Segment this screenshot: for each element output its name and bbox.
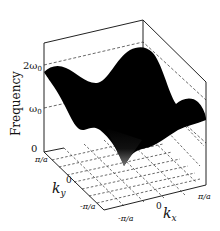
kx-tick-zero: 0	[156, 201, 162, 211]
kx-axis: -π/a 0 π/a kx	[118, 192, 211, 223]
ky-tick-zero: 0	[66, 175, 72, 185]
ky-axis-title: ky	[52, 180, 66, 198]
z-tick-0: 0	[31, 143, 37, 154]
ky-axis: π/a 0 -π/a ky	[34, 155, 96, 211]
z-tick-w0: ω0	[29, 103, 42, 116]
kx-tick-neg: -π/a	[118, 214, 134, 223]
ky-tick-neg: -π/a	[80, 202, 96, 211]
band-surface-plot: 2ω0 ω0 0 Frequency π/a 0 -π/a ky -π/a 0 …	[0, 0, 220, 231]
ky-tick-pos: π/a	[34, 155, 48, 164]
z-tick-2w0: 2ω0	[23, 60, 42, 73]
kx-axis-title: kx	[163, 205, 177, 223]
z-axis-ticks: 2ω0 ω0 0	[23, 60, 42, 154]
z-axis-title: Frequency	[9, 71, 23, 136]
kx-tick-pos: π/a	[197, 192, 211, 201]
